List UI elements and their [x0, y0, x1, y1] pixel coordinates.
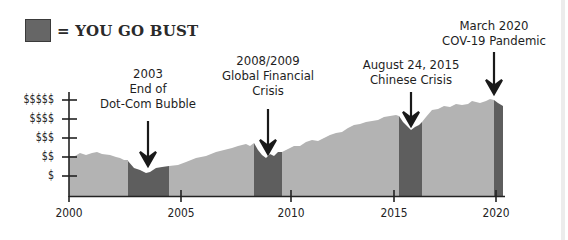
y-tick-label-2: $$ [22, 149, 54, 163]
annotation-covid: March 2020 COV-19 Pandemic [442, 18, 546, 48]
x-tick-label-2020: 2020 [482, 205, 509, 220]
x-tick-label-2000: 2000 [55, 205, 82, 220]
annotation-line: 2008/2009 [222, 53, 314, 68]
y-tick-label-5: $$$$$ [22, 92, 54, 106]
annotation-dotcom: 2003 End of Dot-Com Bubble [100, 66, 196, 111]
y-tick-label-1: $ [22, 168, 54, 182]
bust-covid [494, 100, 503, 196]
x-tick-label-2010: 2010 [277, 205, 304, 220]
annotation-gfc: 2008/2009 Global Financial Crisis [222, 53, 314, 98]
annotation-line: Crisis [222, 83, 314, 98]
annotation-line: End of [100, 81, 196, 96]
annotation-line: March 2020 [442, 18, 546, 33]
annotation-line: Global Financial [222, 68, 314, 83]
annotation-line: August 24, 2015 [363, 57, 460, 72]
bust-china [399, 116, 422, 196]
annotation-line: Dot-Com Bubble [100, 96, 196, 111]
x-tick-label-2005: 2005 [167, 205, 194, 220]
y-tick-label-4: $$$$ [22, 111, 54, 125]
y-tick-label-3: $$$ [22, 130, 54, 144]
x-tick-label-2015: 2015 [380, 205, 407, 220]
annotation-china: August 24, 2015 Chinese Crisis [363, 57, 460, 87]
annotation-line: 2003 [100, 66, 196, 81]
annotation-line: COV-19 Pandemic [442, 33, 546, 48]
annotation-line: Chinese Crisis [363, 72, 460, 87]
